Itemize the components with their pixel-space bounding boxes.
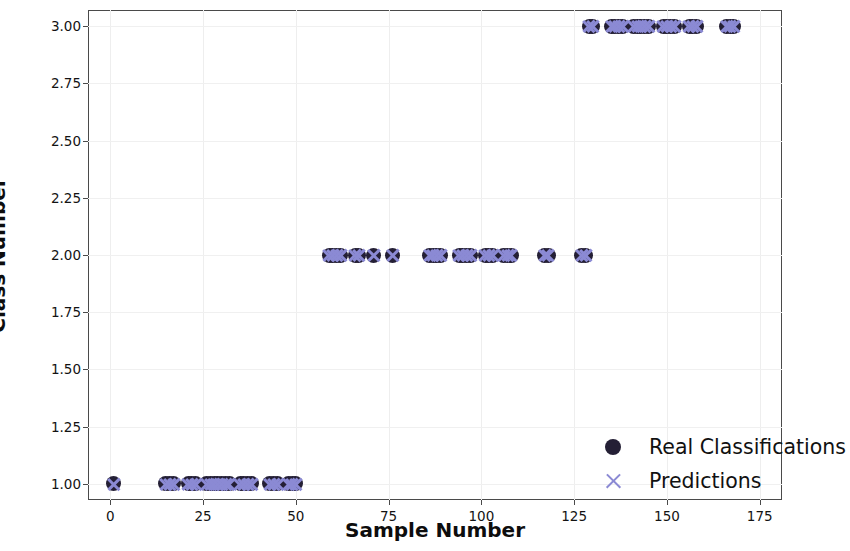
grid-line-horizontal: [88, 312, 782, 313]
grid-line-horizontal: [88, 427, 782, 428]
grid-line-horizontal: [88, 255, 782, 256]
x-tick: [481, 500, 482, 505]
legend-label-real: Real Classifications: [649, 435, 846, 459]
y-tick-label: 2.50: [51, 133, 81, 149]
x-tick-label: 100: [468, 508, 494, 524]
y-tick: [83, 83, 88, 84]
x-tick: [296, 500, 297, 505]
grid-line-horizontal: [88, 26, 782, 27]
x-tick-label: 0: [106, 508, 115, 524]
x-tick-label: 50: [287, 508, 304, 524]
x-tick: [110, 500, 111, 505]
y-tick-label: 1.75: [51, 304, 81, 320]
legend-entry-real: Real Classifications: [593, 430, 850, 464]
x-tick-label: 125: [561, 508, 587, 524]
legend-circle-marker-icon: [602, 436, 624, 458]
grid-line-horizontal: [88, 83, 782, 84]
y-tick: [83, 312, 88, 313]
y-tick: [83, 255, 88, 256]
grid-line-horizontal: [88, 369, 782, 370]
y-tick-label: 2.75: [51, 75, 81, 91]
y-tick-label: 1.25: [51, 419, 81, 435]
axis-spine-top: [88, 10, 782, 11]
legend-label-predictions: Predictions: [649, 469, 762, 493]
chart-legend: Real Classifications Predictions: [593, 430, 850, 502]
x-tick: [203, 500, 204, 505]
y-tick-label: 3.00: [51, 18, 81, 34]
y-tick-label: 1.00: [51, 476, 81, 492]
y-tick: [83, 369, 88, 370]
y-tick: [83, 198, 88, 199]
x-tick-label: 175: [747, 508, 773, 524]
legend-x-marker-icon: [602, 470, 624, 492]
y-tick-label: 2.00: [51, 247, 81, 263]
y-tick: [83, 141, 88, 142]
x-tick-label: 150: [654, 508, 680, 524]
y-tick-label: 1.50: [51, 361, 81, 377]
plot-area: 02550751001251501751.001.251.501.752.002…: [88, 10, 782, 500]
legend-entry-predictions: Predictions: [593, 464, 850, 498]
grid-line-horizontal: [88, 198, 782, 199]
x-tick-label: 75: [380, 508, 397, 524]
y-tick: [83, 26, 88, 27]
y-tick: [83, 484, 88, 485]
x-tick: [574, 500, 575, 505]
x-tick-label: 25: [194, 508, 211, 524]
grid-line-horizontal: [88, 141, 782, 142]
y-tick: [83, 427, 88, 428]
x-tick: [389, 500, 390, 505]
y-axis-title: Class Number: [0, 177, 10, 332]
y-tick-label: 2.25: [51, 190, 81, 206]
